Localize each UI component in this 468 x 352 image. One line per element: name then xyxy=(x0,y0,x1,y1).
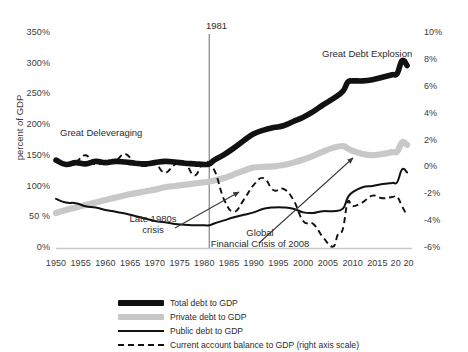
gfc-line2: Financial Crisis of 2008 xyxy=(211,238,310,249)
y-right-tick-8: -6% xyxy=(424,242,464,252)
data-series xyxy=(56,60,407,246)
y-left-tick-5: 100% xyxy=(10,181,50,191)
legend-swatch-thin-black xyxy=(118,324,164,338)
legend-item-2[interactable]: Public debt to GDP xyxy=(118,324,418,338)
legend-swatch-dashed-black xyxy=(118,338,164,352)
legend-swatch-thick-black xyxy=(118,296,164,310)
annotation-global-financial-crisis: Global Financial Crisis of 2008 xyxy=(205,227,315,249)
vline-1981-label: 1981 xyxy=(206,20,227,31)
legend-item-3[interactable]: Current account balance to GDP (right ax… xyxy=(118,338,418,352)
late-1980s-crisis-line2: crisis xyxy=(142,224,164,235)
chart-legend: Total debt to GDPPrivate debt to GDPPubl… xyxy=(118,296,418,352)
y-right-tick-1: 8% xyxy=(424,54,464,64)
y-right-tick-0: 10% xyxy=(424,27,464,37)
gfc-line1: Global xyxy=(246,227,273,238)
annotation-late-1980s-crisis: Late 1980s crisis xyxy=(118,213,188,235)
x-tick-14: 20 20 xyxy=(382,258,422,268)
y-left-tick-1: 300% xyxy=(10,58,50,68)
y-left-tick-0: 350% xyxy=(10,27,50,37)
y-left-tick-7: 0% xyxy=(10,242,50,252)
y-right-tick-6: -2% xyxy=(424,188,464,198)
y-left-tick-6: 50 % xyxy=(10,211,50,221)
y-right-tick-3: 4% xyxy=(424,108,464,118)
y-right-tick-2: 6% xyxy=(424,81,464,91)
legend-label-3: Current account balance to GDP (right ax… xyxy=(170,340,359,350)
legend-label-2: Public debt to GDP xyxy=(170,326,243,336)
legend-label-0: Total debt to GDP xyxy=(170,298,238,308)
legend-label-1: Private debt to GDP xyxy=(170,312,246,322)
y-left-tick-2: 250% xyxy=(10,88,50,98)
legend-item-0[interactable]: Total debt to GDP xyxy=(118,296,418,310)
y-right-tick-5: 0% xyxy=(424,161,464,171)
annotation-great-debt-explosion: Great Debt Explosion xyxy=(322,48,412,59)
y-left-tick-4: 150% xyxy=(10,150,50,160)
late-1980s-crisis-line1: Late 1980s xyxy=(129,213,176,224)
y-left-tick-3: 200% xyxy=(10,119,50,129)
legend-item-1[interactable]: Private debt to GDP xyxy=(118,310,418,324)
annotation-great-deleveraging: Great Deleveraging xyxy=(60,127,142,138)
y-right-tick-4: 2% xyxy=(424,135,464,145)
legend-swatch-thick-grey xyxy=(118,310,164,324)
y-right-tick-7: -4% xyxy=(424,215,464,225)
